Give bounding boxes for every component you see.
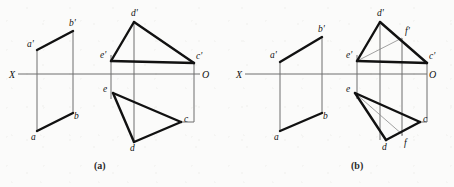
vertex-label-a-prime-a: a' xyxy=(27,39,35,49)
vertex-label-d-prime-b: d' xyxy=(377,8,385,18)
vertex-label-c-prime-b: c' xyxy=(429,51,436,61)
panel-a: XOa'b'bad'e'c'edc xyxy=(8,8,209,153)
caption-b: (b) xyxy=(351,160,363,171)
panel-b: XOa'b'bad'e'c'f'edcf xyxy=(235,8,436,152)
vertex-label-e-prime-a: e' xyxy=(100,50,107,60)
edge-d'-e'-a xyxy=(111,22,134,61)
technical-drawing-figure: XOa'b'bad'e'c'edcXOa'b'bad'e'c'f'edcf (a… xyxy=(0,0,454,187)
edge-d-c-a xyxy=(134,122,181,142)
axis-label-o-b: O xyxy=(429,69,436,80)
vertex-label-e-a: e xyxy=(103,84,107,94)
vertex-label-a-a: a xyxy=(31,132,36,142)
edge-b-a-a xyxy=(37,113,73,131)
vertex-label-d-b: d xyxy=(382,142,387,152)
vertex-label-a-prime-b: a' xyxy=(270,50,278,60)
projection-drawing-canvas: XOa'b'bad'e'c'edcXOa'b'bad'e'c'f'edcf xyxy=(0,0,454,187)
vertex-label-b-prime-b: b' xyxy=(318,24,326,34)
vertex-label-f-prime-b: f' xyxy=(405,26,411,36)
caption-a: (a) xyxy=(94,160,106,171)
edge-d'-c'-a xyxy=(134,22,194,63)
edge-b-a-b xyxy=(280,113,322,131)
edge-a'-b'-a xyxy=(37,31,73,50)
vertex-label-b-prime-a: b' xyxy=(69,18,77,28)
axis-label-x-b: X xyxy=(235,69,243,80)
vertex-label-b-a: b xyxy=(74,111,79,121)
edge-a'-b'-b xyxy=(280,37,322,62)
vertex-label-a-b: a xyxy=(274,132,279,142)
edge-e'-c'-a xyxy=(111,61,194,63)
axis-label-o-a: O xyxy=(202,69,209,80)
edge-d'-c'-b xyxy=(380,22,427,63)
vertex-label-d-a: d xyxy=(130,143,135,153)
vertex-label-e-b: e xyxy=(346,84,350,94)
vertex-label-e-prime-b: e' xyxy=(346,50,353,60)
edge-e'-c'-b xyxy=(357,61,427,63)
axis-label-x-a: X xyxy=(8,69,16,80)
vertex-label-f-b: f xyxy=(404,138,408,148)
vertex-label-b-b: b xyxy=(323,111,328,121)
vertex-label-d-prime-a: d' xyxy=(131,8,139,18)
vertex-label-c-prime-a: c' xyxy=(196,51,203,61)
